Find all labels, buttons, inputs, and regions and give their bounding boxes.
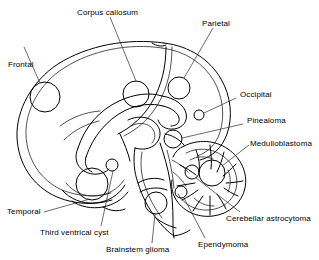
temporal-lobe (62, 180, 128, 211)
label-third-ventrical-cyst: Third ventrical cyst (40, 228, 109, 237)
fourth-ventricle (165, 134, 188, 186)
marker-frontal (30, 82, 60, 112)
label-pinealoma: Pinealoma (247, 116, 286, 125)
brainstem (134, 143, 190, 238)
leader-occipital (204, 98, 236, 113)
label-temporal: Temporal (7, 207, 41, 216)
leader-pinealoma (182, 124, 243, 138)
leader-brainstem-glioma (152, 214, 155, 243)
cerebellum (172, 141, 246, 216)
marker-ependymoma (175, 186, 187, 198)
label-parietal: Parietal (202, 19, 230, 28)
sulcal-detail (60, 111, 100, 140)
lateral-sulcus (118, 47, 172, 136)
marker-medulloblastoma (199, 160, 225, 186)
label-occipital: Occipital (240, 90, 272, 99)
marker-temporal (76, 168, 108, 200)
label-medulloblastoma: Medulloblastoma (250, 139, 312, 148)
label-brainstem-glioma: Brainstem glioma (106, 245, 169, 254)
label-ependymoma: Ependymoma (198, 240, 248, 249)
marker-parietal (168, 77, 190, 99)
third-ventricle-region (120, 117, 160, 161)
marker-pinealoma (164, 130, 182, 148)
brain-tumour-diagram: Corpus callosum Parietal Frontal Occipit… (0, 0, 319, 260)
label-cerebellar-astrocytoma: Cerebellar astrocytoma (226, 214, 311, 223)
label-frontal: Frontal (8, 60, 34, 69)
marker-third-ventrical-cyst (106, 159, 118, 171)
marker-brainstem-glioma (145, 192, 167, 214)
marker-occipital (194, 110, 204, 120)
cerebrum-outline (17, 41, 230, 203)
label-corpus-callosum: Corpus callosum (77, 8, 138, 17)
leader-parietal (184, 28, 213, 78)
